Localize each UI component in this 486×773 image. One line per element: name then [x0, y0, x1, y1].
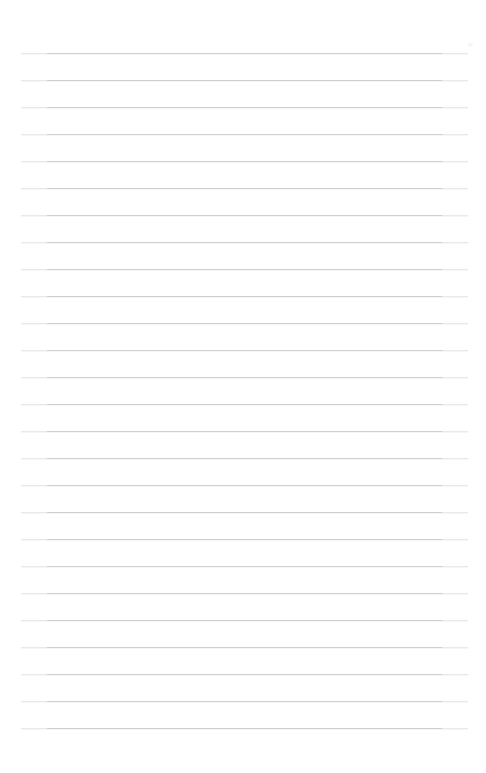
rule-line [21, 134, 468, 135]
rule-line [21, 107, 468, 108]
rule-line [21, 296, 468, 297]
rule-line [21, 647, 468, 648]
rule-line [21, 620, 468, 621]
rule-line [21, 404, 468, 405]
notebook-page [0, 0, 486, 773]
rule-line [21, 53, 468, 54]
ruled-writing-area[interactable] [0, 0, 486, 773]
rule-line [21, 215, 468, 216]
rule-line [21, 728, 468, 729]
rule-line [21, 674, 468, 675]
rule-line [21, 566, 468, 567]
rule-line [21, 242, 468, 243]
rule-line [21, 512, 468, 513]
rule-line [21, 431, 468, 432]
rule-line [21, 80, 468, 81]
rule-line [21, 539, 468, 540]
rule-line [21, 269, 468, 270]
rule-line [21, 701, 468, 702]
rule-line [21, 161, 468, 162]
rule-line [21, 485, 468, 486]
rule-line [21, 188, 468, 189]
rule-line [21, 377, 468, 378]
rule-line [21, 350, 468, 351]
corner-speck-mark [468, 43, 473, 47]
rule-line [21, 593, 468, 594]
rule-line [21, 458, 468, 459]
rule-line [21, 323, 468, 324]
